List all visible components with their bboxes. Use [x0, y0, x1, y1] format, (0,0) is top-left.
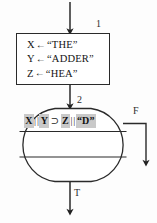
figure-caption-strip	[0, 216, 157, 223]
condition-token: X	[24, 114, 34, 128]
assignment-value: “HEA”	[46, 68, 78, 79]
assign-arrow-icon: ←	[35, 53, 47, 64]
step-number-label-2: 2	[77, 95, 82, 105]
assignment-variable: X	[27, 39, 35, 50]
condition-token: “D”	[76, 114, 96, 128]
step-number-label-1: 1	[96, 19, 101, 29]
decision-condition-expression: X||Y⊃Z||“D”	[24, 114, 116, 128]
condition-operator-icon: ⊃	[49, 114, 61, 128]
assignment-variable: Z	[27, 68, 34, 79]
false-branch-label: F	[133, 106, 139, 116]
assignment-value: “THE”	[47, 39, 78, 50]
condition-token: Z	[61, 114, 70, 128]
assignment-row: Y←“ADDER”	[27, 52, 111, 66]
assignment-row: Z←“HEA”	[27, 67, 111, 81]
assignment-row: X←“THE”	[27, 38, 111, 52]
true-branch-label: T	[74, 188, 80, 198]
assignment-variable: Y	[27, 53, 35, 64]
assignment-process-box: X←“THE” Y←“ADDER” Z←“HEA”	[16, 33, 110, 85]
condition-token: Y	[39, 114, 49, 128]
assign-arrow-icon: ←	[35, 39, 47, 50]
assignment-statement-list: X←“THE” Y←“ADDER” Z←“HEA”	[27, 38, 111, 82]
assign-arrow-icon: ←	[34, 67, 46, 78]
flowchart-figure: X←“THE” Y←“ADDER” Z←“HEA” X||Y⊃Z||“D” 1 …	[0, 0, 157, 223]
assignment-value: “ADDER”	[47, 53, 94, 64]
